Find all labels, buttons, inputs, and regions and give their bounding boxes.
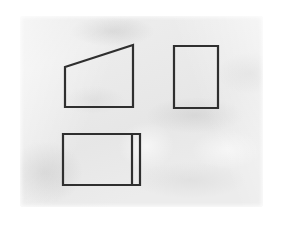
shapes-layer (0, 0, 282, 228)
photo-canvas (0, 0, 282, 228)
quadrilateral-top-left (65, 45, 133, 107)
rectangle-bottom-left (63, 134, 140, 185)
rectangle-top-right (174, 46, 218, 108)
